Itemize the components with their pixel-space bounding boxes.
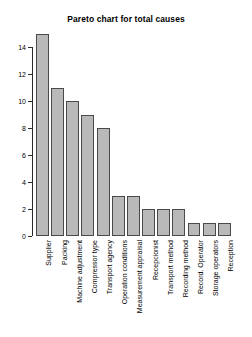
- x-tick-label: Recording method: [182, 240, 189, 297]
- bar: [157, 209, 170, 236]
- y-tick-mark: [28, 74, 32, 75]
- y-axis-line: [32, 47, 33, 236]
- bar: [66, 101, 79, 236]
- y-tick-label: 10: [18, 98, 26, 105]
- y-tick-mark: [28, 155, 32, 156]
- x-tick-label: Storage operators: [212, 240, 219, 296]
- bar: [127, 196, 140, 236]
- x-tick-label: Measurement appraisal: [136, 240, 143, 313]
- y-tick-label: 6: [22, 152, 26, 159]
- x-tick-label: Transport method: [167, 240, 174, 295]
- bar: [203, 223, 216, 236]
- y-tick-label: 0: [22, 233, 26, 240]
- chart-screenshot: Pareto chart for total causes 0246810121…: [0, 0, 252, 337]
- x-tick-label: Compressor type: [91, 240, 98, 293]
- x-tick-label: Supplier: [45, 240, 52, 266]
- bar: [218, 223, 231, 236]
- x-tick-label: Transport agency: [106, 240, 113, 294]
- y-tick-mark: [28, 182, 32, 183]
- y-tick-mark: [28, 101, 32, 102]
- x-tick-label: Reception: [227, 240, 234, 272]
- bar: [51, 88, 64, 236]
- y-tick-mark: [28, 236, 32, 237]
- y-tick-label: 12: [18, 71, 26, 78]
- y-tick-label: 4: [22, 179, 26, 186]
- x-tick-label: Operation conditions: [121, 240, 128, 304]
- x-tick-label: Machine adjustment: [76, 240, 83, 303]
- x-tick-label: Packing: [61, 240, 68, 265]
- plot-area: 02468101214 SupplierPackingMachine adjus…: [0, 0, 252, 337]
- bar: [112, 196, 125, 236]
- y-tick-mark: [28, 47, 32, 48]
- bar: [97, 128, 110, 236]
- bar: [81, 115, 94, 236]
- bar: [172, 209, 185, 236]
- bar: [36, 34, 49, 236]
- bar: [142, 209, 155, 236]
- y-tick-mark: [28, 209, 32, 210]
- y-tick-label: 14: [18, 44, 26, 51]
- bar: [188, 223, 201, 236]
- y-tick-label: 8: [22, 125, 26, 132]
- y-tick-mark: [28, 128, 32, 129]
- x-tick-label: Record. Operator: [197, 240, 204, 294]
- y-tick-label: 2: [22, 206, 26, 213]
- x-tick-label: Recepcionist: [152, 240, 159, 280]
